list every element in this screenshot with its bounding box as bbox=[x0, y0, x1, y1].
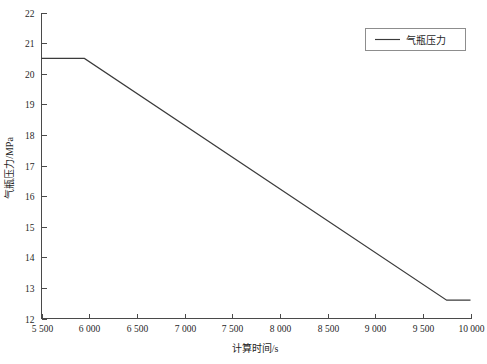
y-tick-label: 15 bbox=[25, 223, 35, 233]
y-axis-title: 气瓶压力/MPa bbox=[3, 137, 15, 199]
y-tick-label: 17 bbox=[25, 162, 35, 172]
x-axis-title-group: 计算时间/s bbox=[232, 342, 279, 354]
x-tick-label: 8 000 bbox=[270, 324, 292, 334]
y-tick-label: 19 bbox=[25, 100, 35, 110]
x-tick-label: 6 000 bbox=[79, 324, 101, 334]
x-tick-label: 6 500 bbox=[127, 324, 149, 334]
y-tick-label: 16 bbox=[25, 192, 35, 202]
x-tick-label: 7 500 bbox=[222, 324, 244, 334]
x-axis-title: 计算时间/s bbox=[232, 342, 279, 354]
x-tick-label: 10 000 bbox=[458, 324, 484, 334]
x-tick-label: 8 500 bbox=[318, 324, 340, 334]
line-chart: 1213141516171819202122 5 5006 0006 5007 … bbox=[0, 0, 487, 364]
x-tick-label: 9 500 bbox=[413, 324, 435, 334]
y-tick-label: 22 bbox=[25, 9, 35, 19]
y-axis-title-group: 气瓶压力/MPa bbox=[3, 137, 15, 199]
y-tick-label: 21 bbox=[25, 39, 35, 49]
x-axis-ticks: 5 5006 0006 5007 0007 5008 0008 5009 000… bbox=[32, 314, 485, 334]
series-line-0 bbox=[42, 58, 471, 300]
y-tick-label: 18 bbox=[25, 131, 35, 141]
x-tick-label: 5 500 bbox=[32, 324, 54, 334]
chart-container: 1213141516171819202122 5 5006 0006 5007 … bbox=[0, 0, 487, 364]
data-series-group bbox=[42, 58, 471, 300]
y-axis-ticks: 1213141516171819202122 bbox=[25, 9, 47, 325]
legend-label-0: 气瓶压力 bbox=[406, 34, 446, 46]
y-tick-label: 13 bbox=[25, 284, 35, 294]
chart-legend[interactable]: 气瓶压力 bbox=[366, 29, 466, 51]
x-tick-label: 7 000 bbox=[175, 324, 197, 334]
y-tick-label: 14 bbox=[25, 253, 35, 263]
x-tick-label: 9 000 bbox=[365, 324, 387, 334]
y-tick-label: 20 bbox=[25, 70, 35, 80]
